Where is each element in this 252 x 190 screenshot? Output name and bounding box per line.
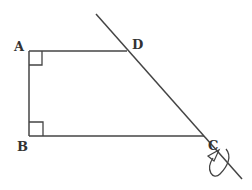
geometry-diagram: A B C D — [0, 0, 252, 190]
label-d: D — [132, 37, 143, 52]
right-angle-marker-a — [29, 51, 42, 65]
label-c: C — [208, 138, 218, 153]
label-a: A — [13, 39, 25, 54]
label-b: B — [17, 139, 28, 154]
line-dc-extended — [96, 14, 242, 179]
right-angle-marker-b — [29, 122, 43, 136]
